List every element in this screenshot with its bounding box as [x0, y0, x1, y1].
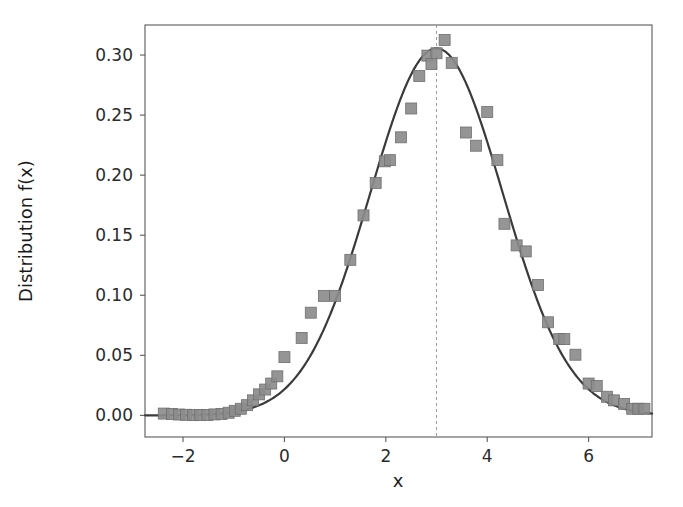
y-tick-label: 0.10	[95, 285, 133, 305]
data-point-marker	[318, 290, 329, 301]
distribution-plot: 0.000.050.100.150.200.250.30 −20246 x Di…	[0, 0, 683, 507]
x-tick-label: −2	[170, 446, 195, 466]
data-point-marker	[279, 352, 290, 363]
data-point-marker	[492, 155, 503, 166]
data-point-marker	[482, 107, 493, 118]
x-tick-label: 2	[380, 446, 391, 466]
data-point-marker	[358, 210, 369, 221]
data-point-marker	[305, 307, 316, 318]
data-point-marker	[591, 380, 602, 391]
y-tick-label: 0.30	[95, 45, 133, 65]
y-axis-title: Distribution f(x)	[15, 160, 36, 302]
data-point-marker	[608, 395, 619, 406]
y-tick-label: 0.05	[95, 345, 133, 365]
data-point-marker	[370, 177, 381, 188]
x-tick-label: 6	[583, 446, 594, 466]
y-tick-label: 0.25	[95, 105, 133, 125]
data-point-marker	[384, 155, 395, 166]
y-tick-label: 0.15	[95, 225, 133, 245]
y-tick-label: 0.20	[95, 165, 133, 185]
data-point-marker	[406, 103, 417, 114]
data-point-marker	[426, 59, 437, 70]
y-tick-label: 0.00	[95, 405, 133, 425]
data-point-marker	[345, 254, 356, 265]
data-point-marker	[471, 140, 482, 151]
data-point-marker	[639, 403, 650, 414]
data-point-marker	[570, 349, 581, 360]
data-point-marker	[520, 246, 531, 257]
chart-figure: 0.000.050.100.150.200.250.30 −20246 x Di…	[0, 0, 683, 507]
data-point-marker	[543, 317, 554, 328]
data-point-marker	[499, 218, 510, 229]
data-point-marker	[460, 127, 471, 138]
data-point-marker	[439, 35, 450, 46]
data-point-marker	[414, 71, 425, 82]
data-point-marker	[446, 57, 457, 68]
data-point-marker	[296, 332, 307, 343]
data-point-marker	[330, 290, 341, 301]
data-point-marker	[532, 280, 543, 291]
data-point-marker	[272, 371, 283, 382]
data-point-marker	[431, 48, 442, 59]
data-point-marker	[559, 334, 570, 345]
data-point-marker	[396, 132, 407, 143]
figure-background	[0, 0, 683, 507]
x-axis-title: x	[393, 470, 404, 491]
x-tick-label: 4	[482, 446, 493, 466]
x-tick-label: 0	[279, 446, 290, 466]
